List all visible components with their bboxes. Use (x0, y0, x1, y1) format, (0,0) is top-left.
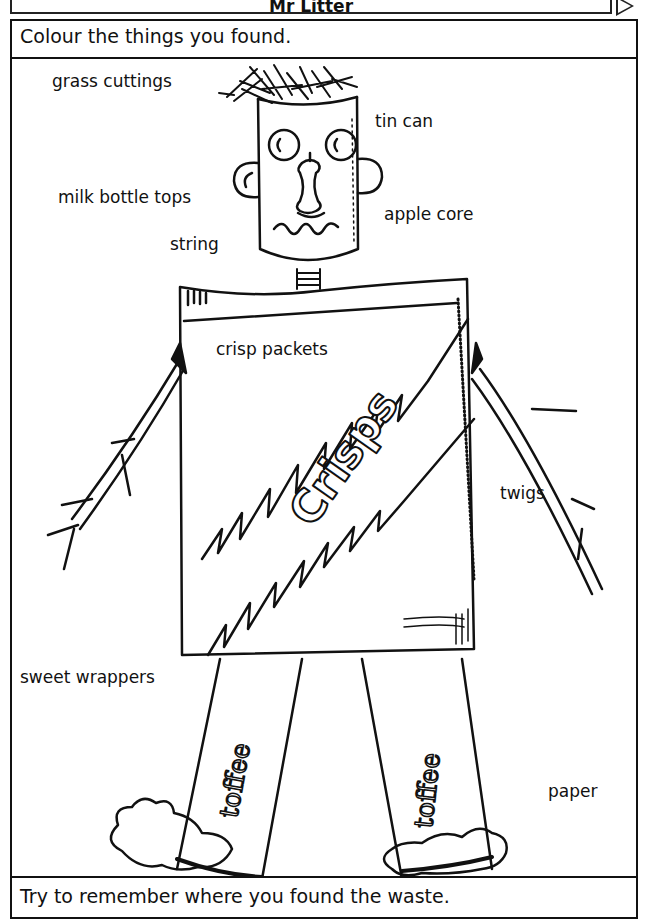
crisp-packets-icon: Crisps (180, 279, 474, 655)
milk-bottle-tops-icon (234, 159, 382, 197)
crisps-brand-text: Crisps (278, 380, 408, 535)
label-paper: paper (548, 781, 597, 801)
label-apple-core: apple core (384, 204, 473, 224)
title-strip: Mr Litter (10, 0, 612, 14)
twigs-icon-right (472, 343, 602, 594)
drawing-area: Crisps toffee toffee (12, 59, 636, 876)
toffee-text-left: toffee (213, 741, 256, 820)
eye-icon (269, 130, 356, 160)
paper-icon (111, 799, 507, 875)
label-tin-can: tin can (375, 111, 433, 131)
mr-litter-illustration: Crisps toffee toffee (12, 59, 636, 876)
twigs-icon-left (48, 343, 186, 569)
footer-instruction: Try to remember where you found the wast… (12, 876, 636, 917)
toffee-text-right: toffee (408, 752, 446, 830)
label-twigs: twigs (500, 483, 545, 503)
worksheet: Colour the things you found. (10, 19, 638, 919)
label-string: string (170, 234, 219, 254)
tin-can-icon (258, 97, 358, 260)
instruction-text: Colour the things you found. (12, 21, 636, 59)
neck-spring-icon (297, 269, 320, 289)
string-icon (274, 223, 338, 234)
page-title: Mr Litter (12, 0, 610, 16)
grass-cuttings-icon (219, 65, 357, 103)
label-milk-bottle-tops: milk bottle tops (58, 187, 191, 207)
title-tab-arrow (616, 0, 634, 16)
label-crisp-packets: crisp packets (216, 339, 328, 359)
label-sweet-wrappers: sweet wrappers (20, 667, 155, 687)
label-grass-cuttings: grass cuttings (52, 71, 172, 91)
sweet-wrappers-icon: toffee toffee (177, 659, 492, 876)
apple-core-icon (297, 153, 324, 217)
